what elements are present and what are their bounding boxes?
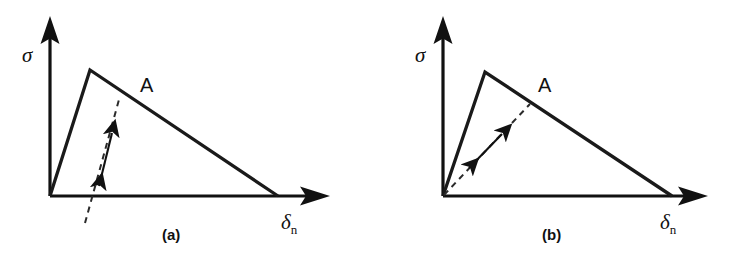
- point-label-b: A: [538, 74, 552, 96]
- x-axis-label-b: δn: [660, 210, 677, 237]
- point-label-a: A: [140, 74, 154, 96]
- panel-caption-b: (b): [542, 226, 561, 243]
- x-axis-label-a: δn: [281, 210, 298, 237]
- x-axis-label-sub-a: n: [291, 222, 298, 237]
- panel-a: σ δn A (a): [0, 0, 370, 266]
- traction-separation-curve-a: [50, 70, 278, 196]
- y-axis-label-b: σ: [415, 43, 427, 67]
- unloading-path-a: [85, 96, 120, 223]
- y-axis-label-a: σ: [22, 43, 34, 67]
- panel-b: σ δn A (b): [370, 0, 740, 266]
- traction-separation-curve-b: [443, 72, 672, 196]
- panel-caption-a: (a): [162, 226, 180, 243]
- cohesive-law-figure: σ δn A (a): [0, 0, 740, 266]
- unloading-arrow-a: [99, 133, 112, 186]
- x-axis-label-sub-b: n: [670, 222, 677, 237]
- unloading-arrow-b: [469, 134, 502, 168]
